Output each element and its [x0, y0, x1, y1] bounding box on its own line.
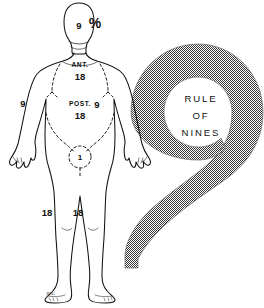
label-posterior-percent: 18 — [75, 110, 86, 121]
percent-symbol: % — [89, 15, 102, 31]
rule-of-nines-figure: RULE OF NINES — [0, 0, 264, 308]
caption-line-rule: RULE — [184, 93, 217, 104]
label-anterior-percent: 18 — [75, 71, 86, 82]
label-perineum-percent: 1 — [78, 153, 83, 162]
label-leg-right-percent: 18 — [42, 207, 53, 218]
illustration-canvas: RULE OF NINES — [0, 0, 264, 308]
label-posterior-tag: POST. — [69, 100, 91, 107]
caption-line-nines: NINES — [182, 127, 221, 138]
label-anterior-tag: ANT. — [71, 61, 88, 68]
label-arm-right-percent: 9 — [20, 98, 25, 109]
label-arm-left-percent: 9 — [94, 99, 99, 110]
artist-signature: JHG — [46, 291, 56, 296]
caption-line-of: OF — [192, 110, 209, 121]
label-head-percent: 9 — [76, 20, 81, 31]
label-leg-left-percent: 18 — [73, 207, 84, 218]
